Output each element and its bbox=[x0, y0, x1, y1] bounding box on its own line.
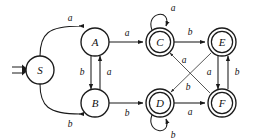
state-D-label: D bbox=[155, 97, 164, 109]
edge-E-F[interactable]: a bbox=[207, 56, 218, 89]
edge-B-D[interactable]: b bbox=[109, 103, 143, 118]
edge-S-B-path bbox=[40, 84, 80, 114]
edge-S-A-path bbox=[40, 26, 80, 56]
edge-S-B-label: b bbox=[68, 119, 73, 129]
state-C-label: C bbox=[156, 36, 164, 48]
edge-B-A-label: a bbox=[107, 67, 112, 77]
edge-C-C[interactable]: a bbox=[151, 3, 176, 30]
edge-D-F[interactable]: a bbox=[174, 103, 205, 117]
state-B-label: B bbox=[92, 97, 99, 109]
edge-A-B-label: b bbox=[80, 67, 85, 77]
edge-E-F-label: a bbox=[207, 67, 212, 77]
edge-C-C-label: a bbox=[171, 3, 176, 13]
state-E-label: E bbox=[218, 36, 226, 48]
edge-B-D-label: b bbox=[125, 108, 130, 118]
state-node-C[interactable]: C bbox=[146, 28, 174, 56]
edge-D-F-label: a bbox=[188, 107, 193, 117]
state-A-label: A bbox=[91, 36, 99, 48]
edge-C-E-label: b bbox=[188, 27, 193, 37]
state-node-S[interactable]: S bbox=[26, 56, 54, 84]
edge-C-E[interactable]: b bbox=[174, 27, 205, 42]
edge-F-E[interactable]: b bbox=[228, 56, 240, 89]
edges-layer: a b b a a bbox=[40, 3, 240, 140]
automaton-diagram: a b b a a bbox=[0, 0, 256, 140]
state-S-label: S bbox=[37, 64, 43, 76]
edge-E-D-path bbox=[171, 53, 211, 92]
state-node-B[interactable]: B bbox=[81, 89, 109, 117]
edge-E-D[interactable]: b bbox=[171, 53, 211, 92]
state-F-label: F bbox=[218, 97, 226, 109]
edge-S-B[interactable]: b bbox=[40, 84, 80, 129]
state-node-E[interactable]: E bbox=[208, 28, 236, 56]
state-node-A[interactable]: A bbox=[81, 28, 109, 56]
edge-E-D-label: b bbox=[186, 82, 191, 92]
edge-F-C-label: a bbox=[182, 55, 187, 65]
edge-A-C[interactable]: a bbox=[109, 28, 143, 42]
states-layer: S A B C D bbox=[26, 28, 236, 117]
automaton-canvas: a b b a a bbox=[0, 0, 256, 140]
edge-S-A-label: a bbox=[68, 13, 73, 23]
edge-D-D-label: b bbox=[171, 130, 176, 140]
edge-D-D[interactable]: b bbox=[151, 115, 176, 140]
state-node-F[interactable]: F bbox=[208, 89, 236, 117]
edge-A-C-label: a bbox=[125, 28, 130, 38]
edge-F-E-label: b bbox=[235, 67, 240, 77]
edge-A-B[interactable]: b bbox=[80, 56, 91, 89]
edge-B-A[interactable]: a bbox=[100, 56, 112, 89]
state-node-D[interactable]: D bbox=[146, 89, 174, 117]
edge-S-A[interactable]: a bbox=[40, 13, 80, 56]
